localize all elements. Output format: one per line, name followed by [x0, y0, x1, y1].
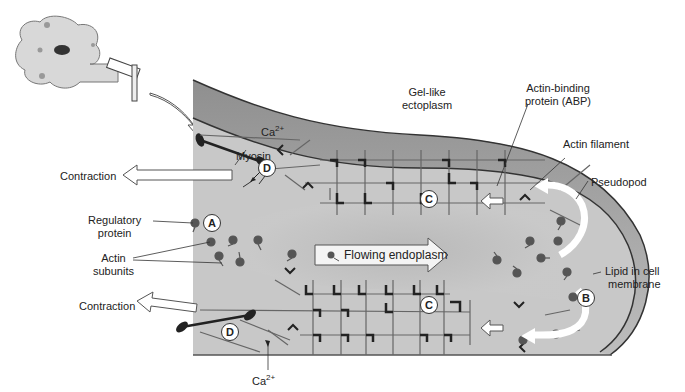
amoeboid-motion-diagram: [0, 0, 685, 392]
abp-label: Actin-binding protein (ABP): [525, 82, 591, 108]
lipid-line2: membrane: [605, 278, 661, 291]
gel-ectoplasm-label: Gel-like ectoplasm: [402, 86, 452, 112]
abp-line1: Actin-binding: [525, 82, 591, 95]
regulatory-line1: Regulatory: [88, 214, 141, 227]
actin-subunits-label: Actin subunits: [93, 252, 134, 278]
contraction-top-label: Contraction: [60, 170, 116, 183]
lipid-label: Lipid in cell membrane: [605, 265, 661, 291]
marker-d-top: D: [258, 159, 276, 177]
actin-subunits-line2: subunits: [93, 265, 134, 278]
ca-superscript: 2+: [266, 373, 275, 382]
gel-ectoplasm-line2: ectoplasm: [402, 99, 452, 112]
zoom-arrow-icon: [150, 93, 198, 133]
marker-c-bottom: C: [420, 296, 438, 314]
amoeba-icon: [16, 16, 140, 101]
flowing-endoplasm-label: Flowing endoplasm: [344, 248, 447, 262]
contraction-arrow-bottom: [137, 292, 197, 312]
contraction-bottom-label: Contraction: [79, 300, 135, 313]
ca-text: Ca: [261, 126, 275, 138]
regulatory-line2: protein: [88, 227, 141, 240]
ca-superscript: 2+: [275, 124, 284, 133]
lipid-line1: Lipid in cell: [605, 265, 661, 278]
marker-d-bottom: D: [221, 323, 239, 341]
gel-ectoplasm-line1: Gel-like: [402, 86, 452, 99]
ca-top-label: Ca2+: [261, 122, 284, 139]
regulatory-protein-label: Regulatory protein: [88, 214, 141, 240]
actin-filament-label: Actin filament: [563, 138, 629, 151]
marker-a: A: [203, 214, 221, 232]
ca-bottom-label: Ca2+: [252, 371, 275, 388]
abp-line2: protein (ABP): [525, 95, 591, 108]
pseudopod-label: Pseudopod: [591, 176, 647, 189]
marker-c-top: C: [420, 190, 438, 208]
ca-text: Ca: [252, 375, 266, 387]
marker-b: B: [577, 289, 595, 307]
actin-subunits-line1: Actin: [93, 252, 134, 265]
